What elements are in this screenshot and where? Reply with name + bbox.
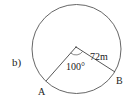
point-b-label: B (116, 75, 123, 86)
circle-sector-diagram: b) 100° 72m A B (0, 0, 134, 99)
circle (32, 5, 121, 94)
radius-label: 72m (90, 51, 108, 62)
angle-arc (71, 51, 83, 55)
angle-label: 100° (66, 61, 85, 72)
part-label: b) (12, 56, 22, 69)
center-dot (75, 46, 76, 47)
point-a-label: A (38, 86, 46, 97)
